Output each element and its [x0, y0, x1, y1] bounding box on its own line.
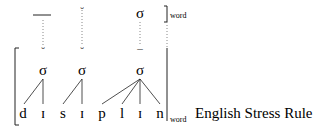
syllable-node-1: σ: [39, 62, 47, 78]
segment-i-2: ɪ: [80, 105, 84, 121]
syllable-top: σ: [136, 5, 144, 21]
syllable-node-2: σ: [78, 62, 86, 78]
top-word-subscript: word: [170, 11, 186, 20]
segment-l: l: [120, 105, 124, 121]
segment-p: p: [98, 105, 106, 121]
rule-label: English Stress Rule: [195, 105, 313, 121]
syllable-node-3: σ: [136, 62, 144, 78]
word-subscript: word: [170, 115, 186, 124]
segment-d: d: [19, 105, 27, 121]
top-right-bracket: [164, 6, 167, 22]
breve-mid-1: ˘: [41, 45, 45, 57]
association-lines: [24, 79, 160, 104]
macron-mid-3: ¯: [136, 47, 143, 59]
breve-mid-2: ˘: [80, 45, 84, 57]
segment-i-3: ɪ: [138, 105, 142, 121]
stress-diagram: ˘ σ word ˘ ˘ ¯ σ σ σ d ɪ s ɪ p l ɪ n wor…: [0, 0, 315, 129]
segment-i-1: ɪ: [41, 105, 45, 121]
segment-n: n: [156, 105, 164, 121]
segment-s: s: [60, 105, 66, 121]
